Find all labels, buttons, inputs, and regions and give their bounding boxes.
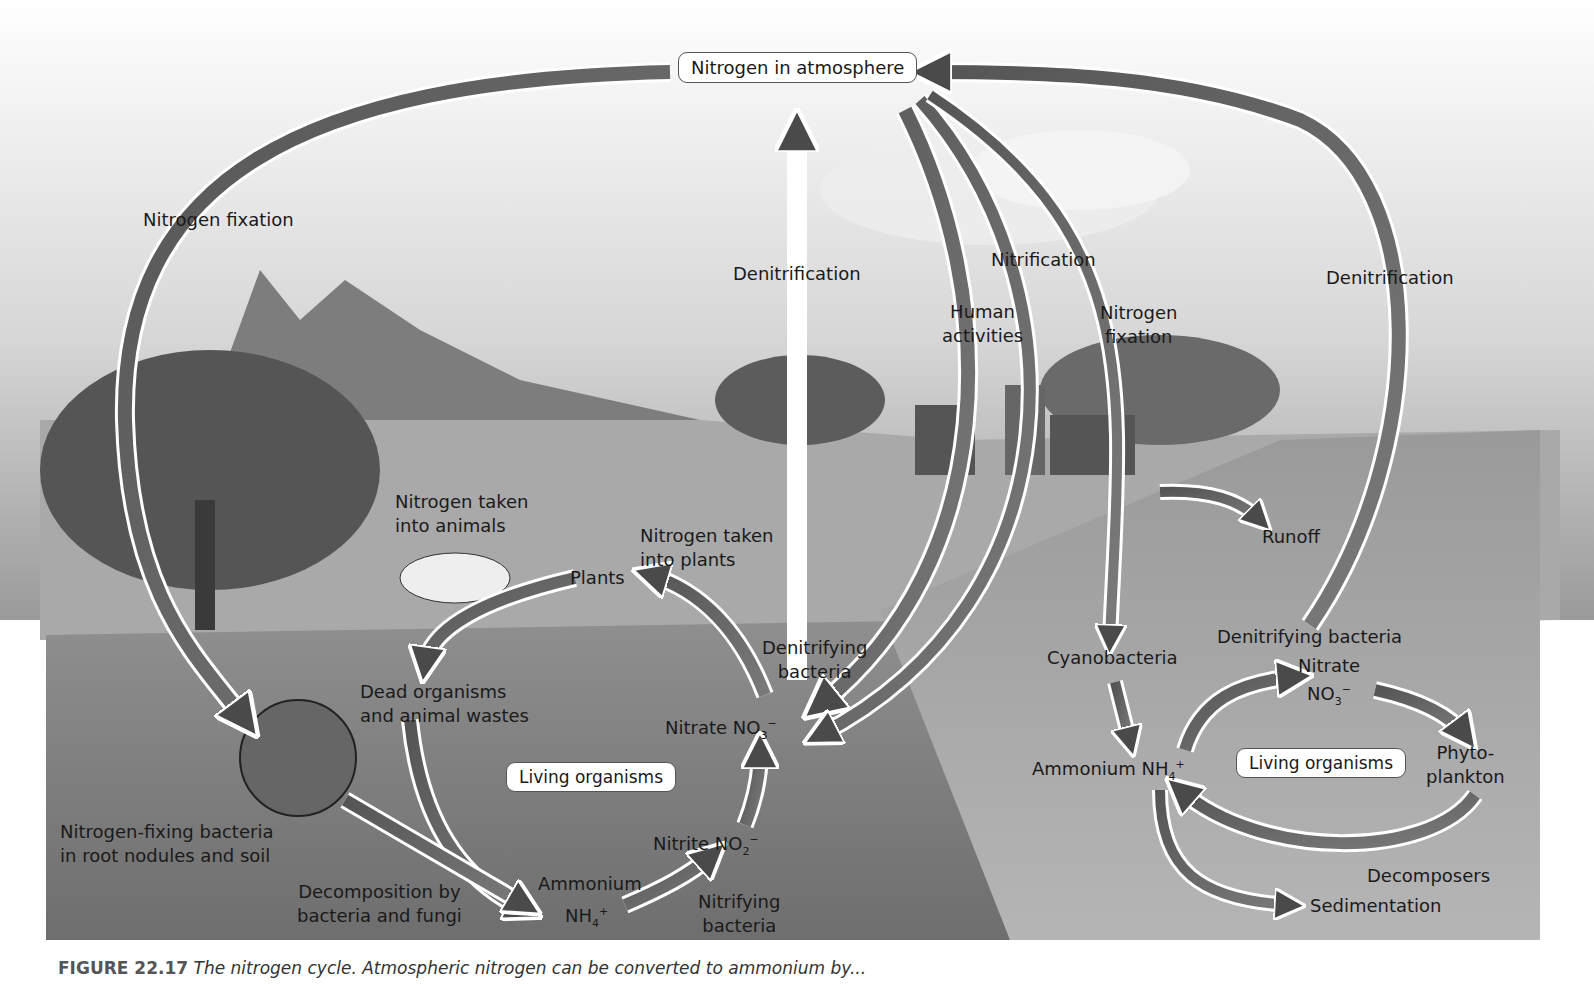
nh4-sub: 4 xyxy=(592,917,599,930)
ammonium-water-label: Ammonium NH4+ xyxy=(1032,753,1185,789)
living-organisms-water-box: Living organisms xyxy=(1236,748,1406,778)
ammonium-land-label: Ammonium xyxy=(538,872,642,896)
human-activities-line2: activities xyxy=(942,324,1023,348)
nf-right-line1: Nitrogen xyxy=(1100,301,1177,325)
nitrification-label: Nitrification xyxy=(991,248,1096,272)
nitrate-land-label: Nitrate NO3− xyxy=(665,712,777,748)
nitrate-sub: 3 xyxy=(760,729,767,742)
nitrifying-bacteria-label: Nitrifying bacteria xyxy=(698,890,780,938)
human-activities-label: Human activities xyxy=(942,300,1023,348)
taken-animals-line2: into animals xyxy=(395,514,529,538)
fixing-line2: in root nodules and soil xyxy=(60,844,273,868)
fixing-line1: Nitrogen-fixing bacteria xyxy=(60,820,273,844)
ammonium-water-text: Ammonium NH xyxy=(1032,758,1168,779)
taken-plants-line2: into plants xyxy=(640,548,774,572)
ammonium-water-sub: 4 xyxy=(1168,770,1175,783)
figure-number: FIGURE 22.17 xyxy=(58,958,188,978)
taken-plants-line1: Nitrogen taken xyxy=(640,524,774,548)
decomposers-label: Decomposers xyxy=(1367,864,1490,888)
nh4-land-label: NH4+ xyxy=(565,900,608,936)
sedimentation-label: Sedimentation xyxy=(1310,894,1442,918)
nitrite-sup: − xyxy=(749,833,758,846)
denitrification-label: Denitrification xyxy=(733,262,861,286)
nitrate-water-line1: Nitrate xyxy=(1298,654,1360,678)
taken-plants-label: Nitrogen taken into plants xyxy=(640,524,774,572)
nitrogen-fixation-label: Nitrogen fixation xyxy=(143,208,294,232)
nitrate-text: Nitrate NO xyxy=(665,717,760,738)
ammonium-water-sup: + xyxy=(1175,758,1184,771)
nitrifying-line1: Nitrifying xyxy=(698,890,780,914)
no3-water-sub: 3 xyxy=(1335,695,1342,708)
nitrifying-line2: bacteria xyxy=(698,914,780,938)
phytoplankton-label: Phyto- plankton xyxy=(1426,741,1505,789)
denitrifying-bacteria-water-label: Denitrifying bacteria xyxy=(1217,625,1402,649)
human-activities-line1: Human xyxy=(942,300,1023,324)
atmosphere-box: Nitrogen in atmosphere xyxy=(678,52,917,83)
nitrogen-fixing-bacteria-label: Nitrogen-fixing bacteria in root nodules… xyxy=(60,820,273,868)
caption-text: The nitrogen cycle. Atmospheric nitrogen… xyxy=(188,958,866,978)
nh4-text: NH xyxy=(565,905,592,926)
decomp-line2: bacteria and fungi xyxy=(297,904,462,928)
nitrite-text: Nitrite NO xyxy=(653,833,742,854)
denitrification-right-label: Denitrification xyxy=(1326,266,1454,290)
decomp-line1: Decomposition by xyxy=(297,880,462,904)
no3-water-text: NO xyxy=(1307,683,1335,704)
figure-caption: FIGURE 22.17 The nitrogen cycle. Atmosph… xyxy=(58,958,866,978)
nitrogen-fixation-right-label: Nitrogen fixation xyxy=(1100,301,1177,349)
cyanobacteria-label: Cyanobacteria xyxy=(1047,646,1178,670)
nitrate-water-label: Nitrate NO3− xyxy=(1298,654,1360,714)
nitrate-water-line2: NO3− xyxy=(1298,678,1360,714)
no3-water-sup: − xyxy=(1342,683,1351,696)
nh4-sup: + xyxy=(599,905,608,918)
runoff-label: Runoff xyxy=(1262,525,1320,549)
nitrate-sup: − xyxy=(767,717,776,730)
decomposition-label: Decomposition by bacteria and fungi xyxy=(297,880,462,928)
taken-animals-label: Nitrogen taken into animals xyxy=(395,490,529,538)
nitrite-sub: 2 xyxy=(742,845,749,858)
nitrogen-cycle-diagram: Nitrogen in atmosphere Living organisms … xyxy=(0,0,1594,985)
living-organisms-land-box: Living organisms xyxy=(506,762,676,792)
dead-line1: Dead organisms xyxy=(360,680,529,704)
dead-organisms-label: Dead organisms and animal wastes xyxy=(360,680,529,728)
denitrifying-line2: bacteria xyxy=(762,660,867,684)
denitrifying-line1: Denitrifying xyxy=(762,636,867,660)
plants-label: Plants xyxy=(570,566,625,590)
denitrifying-bacteria-label: Denitrifying bacteria xyxy=(762,636,867,684)
dead-line2: and animal wastes xyxy=(360,704,529,728)
phyto-line1: Phyto- xyxy=(1426,741,1505,765)
nitrite-label: Nitrite NO2− xyxy=(653,828,759,864)
phyto-line2: plankton xyxy=(1426,765,1505,789)
nf-right-line2: fixation xyxy=(1100,325,1177,349)
taken-animals-line1: Nitrogen taken xyxy=(395,490,529,514)
